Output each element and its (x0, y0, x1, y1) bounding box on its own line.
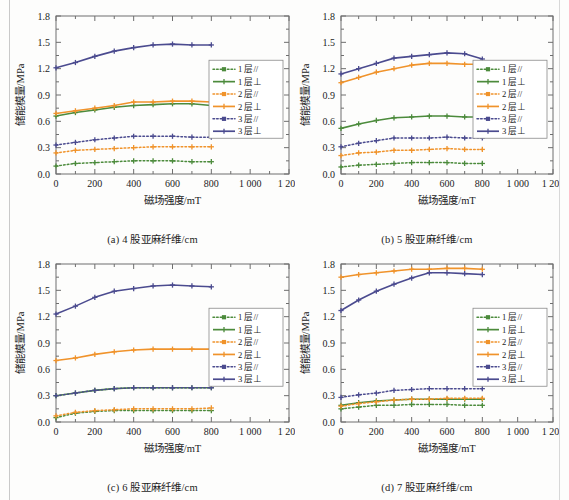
x-tick-label: 1 200 (542, 178, 559, 189)
series-marker (444, 146, 449, 151)
x-axis-title: 磁场强度/mT (418, 194, 476, 206)
series-marker (131, 286, 136, 291)
series-marker (409, 267, 414, 272)
series-marker (112, 49, 117, 54)
series-marker (427, 397, 432, 402)
chart-b: 0.00.30.60.91.21.51.802004006008001 0001… (295, 2, 559, 230)
series-marker (189, 159, 194, 164)
y-tick-label: 0.0 (323, 417, 336, 428)
series-marker (444, 50, 449, 55)
series-marker (462, 386, 467, 391)
series-marker (444, 270, 449, 275)
series-marker (53, 142, 58, 147)
series-marker (462, 51, 467, 56)
series-marker (131, 347, 136, 352)
series-marker (92, 388, 97, 393)
series-marker (444, 135, 449, 140)
series-marker (209, 284, 214, 289)
x-tick-label: 0 (54, 426, 59, 437)
series-marker (391, 161, 396, 166)
x-tick-label: 800 (204, 426, 219, 437)
series-marker (170, 282, 175, 287)
y-tick-label: 1.5 (38, 285, 51, 296)
x-tick-label: 200 (87, 426, 102, 437)
page-column-rule-right (559, 0, 560, 500)
series-marker (427, 160, 432, 165)
series-marker (131, 385, 136, 390)
series-marker (73, 410, 78, 415)
series-marker (444, 61, 449, 66)
legend-label: 1 层⊥ (238, 77, 262, 87)
x-axis-title: 磁场强度/mT (144, 442, 202, 454)
legend-label: 3 层// (502, 114, 523, 124)
x-tick-label: 600 (440, 178, 455, 189)
series-marker (356, 141, 361, 146)
y-tick-label: 1.8 (323, 11, 336, 22)
series-marker (374, 118, 379, 123)
series-marker (189, 283, 194, 288)
chart-d: 0.00.30.60.91.21.51.802004006008001 0001… (295, 250, 559, 478)
series-marker (150, 134, 155, 139)
legend-label: 1 层// (238, 312, 259, 322)
x-tick-label: 0 (54, 178, 59, 189)
series-marker (112, 386, 117, 391)
x-tick-label: 400 (126, 178, 141, 189)
series-marker (356, 150, 361, 155)
series-marker (427, 270, 432, 275)
series-marker (391, 56, 396, 61)
subplot-d: 0.00.30.60.91.21.51.802004006008001 0001… (295, 250, 559, 498)
y-tick-label: 1.2 (38, 63, 51, 74)
legend-label: 2 层// (502, 89, 523, 99)
subplot-c: 0.00.30.60.91.21.51.802004006008001 0001… (10, 250, 295, 498)
series-marker (356, 272, 361, 277)
series-marker (444, 386, 449, 391)
legend-label: 2 层⊥ (502, 102, 526, 112)
series-marker (170, 347, 175, 352)
series-marker (462, 161, 467, 166)
series-marker (391, 115, 396, 120)
legend-label: 1 层⊥ (502, 325, 526, 335)
series-marker (356, 163, 361, 168)
series-marker (338, 80, 343, 85)
series-marker (53, 150, 58, 155)
series-marker (189, 135, 194, 140)
x-tick-label: 0 (339, 178, 344, 189)
series-marker (112, 135, 117, 140)
series-marker (53, 65, 58, 70)
series-marker (409, 397, 414, 402)
series-marker (150, 158, 155, 163)
series-marker (73, 161, 78, 166)
x-tick-label: 1 000 (239, 426, 262, 437)
series-marker (427, 113, 432, 118)
series-marker (356, 392, 361, 397)
caption-b: (b) 5 股亚麻纤维/cm (295, 231, 559, 246)
series-marker (427, 135, 432, 140)
series-marker (480, 272, 485, 277)
series-marker (427, 52, 432, 57)
series-marker (209, 144, 214, 149)
y-tick-label: 1.8 (38, 11, 51, 22)
series-marker (409, 387, 414, 392)
caption-d: (d) 7 股亚麻纤维/cm (295, 479, 559, 494)
y-tick-label: 0.6 (323, 364, 336, 375)
series-marker (53, 311, 58, 316)
series-marker (356, 75, 361, 80)
y-tick-label: 0.0 (38, 417, 51, 428)
series-marker (374, 61, 379, 66)
series-marker (338, 164, 343, 169)
legend-label: 3 层⊥ (238, 374, 262, 384)
y-tick-label: 0.3 (323, 390, 336, 401)
y-tick-label: 1.2 (323, 63, 336, 74)
legend-label: 1 层// (502, 312, 523, 322)
y-tick-label: 0.9 (323, 338, 336, 349)
series-marker (444, 160, 449, 165)
y-tick-label: 0.6 (38, 116, 51, 127)
series-marker (427, 386, 432, 391)
series-marker (427, 402, 432, 407)
series-marker (131, 145, 136, 150)
legend-label: 2 层// (238, 89, 259, 99)
series-marker (170, 41, 175, 46)
caption-c: (c) 6 股亚麻纤维/cm (10, 479, 295, 494)
x-tick-label: 1 200 (278, 426, 295, 437)
subplot-grid: 0.00.30.60.91.21.51.802004006008001 0001… (10, 2, 559, 498)
